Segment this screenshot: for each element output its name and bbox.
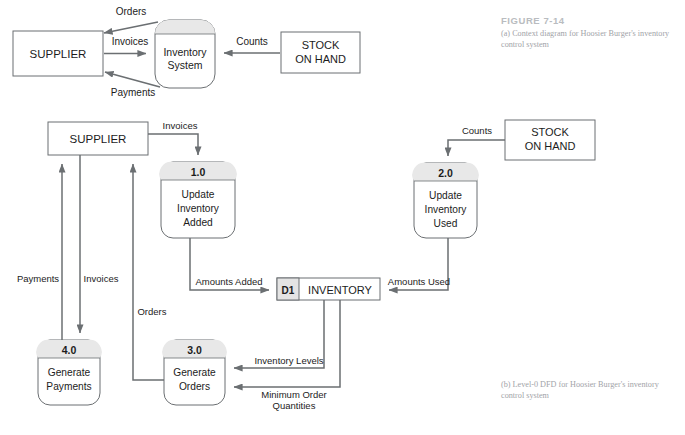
level0-flow-amounts-added-label: Amounts Added — [195, 276, 262, 287]
level0-process-4-number: 4.0 — [62, 344, 77, 356]
context-process-label-2: System — [167, 59, 202, 71]
context-flow-orders: Orders — [104, 6, 158, 33]
level0-flow-inventory-levels-label: Inventory Levels — [254, 355, 323, 366]
level0-flow-min-order-quantities-label-2: Quantities — [273, 400, 316, 411]
level0-process-1-line2: Inventory — [177, 203, 220, 214]
level0-supplier-label: SUPPLIER — [70, 133, 127, 145]
level0-process-4-line2: Payments — [46, 381, 91, 392]
level0-process-2-line1: Update — [429, 190, 462, 201]
level0-process-3-number: 3.0 — [187, 344, 202, 356]
level0-stock-label-2: ON HAND — [525, 140, 576, 152]
level0-flow-amounts-used-label: Amounts Used — [388, 276, 450, 287]
level0-data-store-d1: D1 INVENTORY — [277, 278, 380, 300]
dfd-svg: SUPPLIER Inventory System STOCK ON HAND … — [0, 0, 685, 435]
level0-process-4-line1: Generate — [48, 367, 91, 378]
level0-flow-payments-label: Payments — [17, 273, 59, 284]
level0-process-2-line3: Used — [434, 218, 458, 229]
level0-flow-counts-to-p2: Counts — [448, 125, 505, 156]
level0-entity-supplier: SUPPLIER — [48, 122, 148, 155]
level0-flow-invoices-to-p4: Invoices — [80, 155, 119, 333]
level0-flow-payments: Payments — [17, 164, 62, 340]
level0-process-3: 3.0 Generate Orders — [162, 340, 226, 405]
level0-process-2: 2.0 Update Inventory Used — [412, 163, 478, 238]
context-process-inventory-system: Inventory System — [155, 20, 215, 88]
level0-flow-min-order-quantities-label-1: Minimum Order — [261, 389, 326, 400]
context-flow-invoices-label: Invoices — [112, 36, 149, 47]
level0-entity-stock-on-hand: STOCK ON HAND — [505, 120, 595, 160]
context-flow-counts: Counts — [224, 36, 280, 53]
figure-caption-a: (a) Context diagram for Hoosier Burger's… — [501, 29, 681, 50]
level0-process-4: 4.0 Generate Payments — [36, 340, 101, 405]
level0-process-3-line2: Orders — [179, 381, 210, 392]
level0-process-1-line3: Added — [183, 217, 213, 228]
level0-flow-orders-label: Orders — [137, 306, 166, 317]
context-stock-label-1: STOCK — [302, 39, 340, 51]
level0-diagram: SUPPLIER STOCK ON HAND 1.0 Update Invent… — [17, 120, 595, 411]
level0-process-1: 1.0 Update Inventory Added — [159, 162, 236, 238]
level0-process-3-line1: Generate — [173, 367, 216, 378]
level0-flow-invoices-to-p4-label: Invoices — [84, 273, 119, 284]
context-flow-invoices: Invoices — [104, 36, 148, 54]
level0-process-1-line1: Update — [182, 189, 215, 200]
figure-number: FIGURE 7-14 — [501, 15, 565, 26]
level0-flow-invoices-to-p1-label: Invoices — [163, 120, 198, 131]
context-diagram: SUPPLIER Inventory System STOCK ON HAND … — [13, 6, 360, 98]
level0-process-2-number: 2.0 — [438, 167, 453, 179]
figure-caption-b: (b) Level-0 DFD for Hoosier Burger's inv… — [501, 380, 681, 401]
context-flow-payments: Payments — [105, 72, 160, 98]
level0-process-2-line2: Inventory — [425, 204, 468, 215]
figure-canvas: SUPPLIER Inventory System STOCK ON HAND … — [0, 0, 685, 435]
context-process-label-1: Inventory — [163, 46, 207, 58]
level0-process-1-number: 1.0 — [191, 166, 206, 178]
context-supplier-label: SUPPLIER — [30, 48, 87, 60]
level0-data-store-label: INVENTORY — [308, 284, 372, 296]
level0-data-store-code: D1 — [282, 285, 295, 296]
level0-flow-inventory-levels: Inventory Levels — [234, 300, 324, 368]
context-flow-payments-label: Payments — [111, 87, 155, 98]
level0-flow-invoices-to-p1: Invoices — [148, 120, 198, 155]
context-entity-stock-on-hand: STOCK ON HAND — [281, 32, 360, 73]
level0-flow-amounts-used: Amounts Used — [388, 238, 450, 290]
level0-flow-amounts-added: Amounts Added — [190, 238, 269, 290]
level0-stock-label-1: STOCK — [531, 126, 569, 138]
context-flow-orders-label: Orders — [116, 6, 147, 17]
context-stock-label-2: ON HAND — [295, 53, 346, 65]
context-entity-supplier: SUPPLIER — [13, 31, 103, 76]
context-flow-counts-label: Counts — [236, 36, 268, 47]
level0-flow-counts-to-p2-label: Counts — [462, 125, 492, 136]
